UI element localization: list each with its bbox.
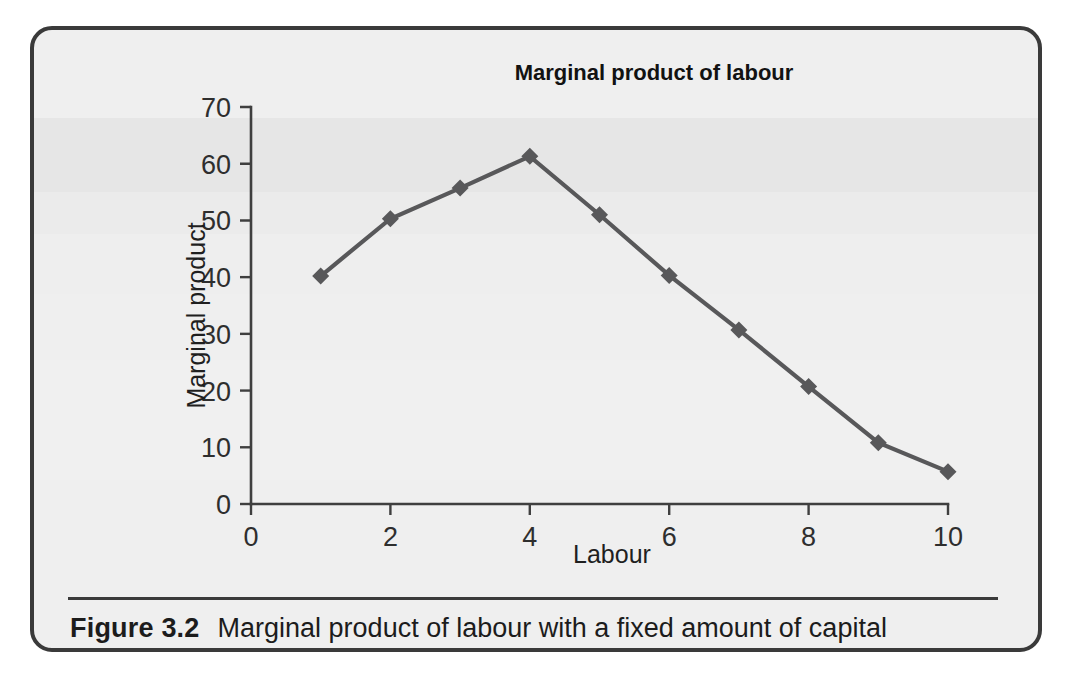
x-axis-label: Labour xyxy=(573,540,651,568)
x-tick-label: 0 xyxy=(243,522,258,552)
x-tick-label: 2 xyxy=(383,522,398,552)
figure-card: 0102030405060700246810 Marginal product … xyxy=(30,26,1042,652)
x-tick-label: 4 xyxy=(522,522,537,552)
figure-number: Figure 3.2 xyxy=(70,613,200,643)
data-point-marker xyxy=(452,180,469,197)
chart-tick-labels: 0102030405060700246810 xyxy=(201,93,963,552)
y-tick-label: 60 xyxy=(201,150,231,180)
data-point-marker xyxy=(940,463,957,480)
caption-divider xyxy=(68,597,998,600)
chart-ticks xyxy=(240,107,948,515)
line-chart: 0102030405060700246810 Marginal product … xyxy=(34,30,1038,590)
x-tick-label: 6 xyxy=(662,522,677,552)
chart-series xyxy=(312,148,956,480)
chart-axes xyxy=(251,107,948,504)
y-tick-label: 70 xyxy=(201,93,231,123)
figure-caption-text: Marginal product of labour with a fixed … xyxy=(218,613,887,643)
chart-title: Marginal product of labour xyxy=(515,60,794,85)
x-tick-label: 8 xyxy=(801,522,816,552)
chart-plot-area: 0102030405060700246810 Marginal product … xyxy=(34,30,1038,590)
x-tick-label: 10 xyxy=(933,522,963,552)
y-axis-label: Marginal product xyxy=(182,222,210,408)
y-tick-label: 0 xyxy=(216,490,231,520)
figure-caption: Figure 3.2Marginal product of labour wit… xyxy=(70,613,1000,644)
y-tick-label: 10 xyxy=(201,433,231,463)
